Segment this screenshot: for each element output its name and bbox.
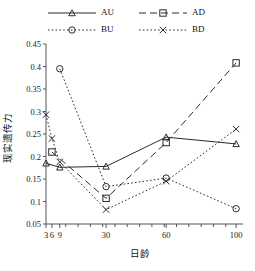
legend-label-ad: AD [192,7,205,17]
y-tick-label: 0.45 [26,39,41,49]
x-tick-label: 6 [50,230,54,240]
chart-series [43,60,240,213]
chart-container: AUADBUBD 0.050.10.150.20.250.30.350.40.4… [0,0,255,271]
x-tick-label: 60 [162,230,171,240]
legend-entry-ad: AD [139,7,205,17]
x-tick-label: 30 [102,230,111,240]
legend-label-au: AU [101,7,114,17]
legend-entry-bd: BD [139,24,205,34]
y-tick-label: 0.1 [30,197,41,207]
y-tick-label: 0.2 [30,152,41,162]
series-line-au [46,137,236,167]
legend-label-bu: BU [101,24,114,34]
legend-label-bd: BD [192,24,205,34]
legend-entry-bu: BU [48,24,114,34]
series-line-bd [46,115,236,210]
legend-entry-au: AU [48,7,114,17]
data-point-bd [49,135,55,141]
axis-lines [46,44,243,224]
y-axis-title: 现实遗传力 [2,113,13,163]
line-chart: AUADBUBD 0.050.10.150.20.250.30.350.40.4… [0,0,255,271]
data-point-bd [163,178,169,184]
data-point-bd [233,126,239,132]
y-tick-label: 0.3 [30,107,41,117]
y-tick-label: 0.25 [26,129,41,139]
series-bd [43,111,240,212]
x-tick-label: 3 [44,230,48,240]
series-ad [49,60,240,202]
marker-cross-strokes [160,27,166,33]
series-au [43,134,240,170]
x-axis-title: 日龄 [130,248,150,259]
legend-marker-bd [160,27,166,33]
chart-axes: 0.050.10.150.20.250.30.350.40.4536930601… [26,39,243,240]
y-tick-label: 0.35 [26,84,41,94]
x-tick-label: 100 [230,230,243,240]
marker-cross-strokes [103,206,109,212]
marker-cross-strokes [49,135,55,141]
marker-cross-strokes [233,126,239,132]
x-tick-label: 9 [58,230,62,240]
y-tick-label: 0.05 [26,219,41,229]
series-bu [57,66,240,212]
marker-cross-strokes [163,178,169,184]
y-tick-label: 0.15 [26,174,41,184]
chart-legend: AUADBUBD [48,7,205,34]
data-point-bd [103,206,109,212]
y-tick-label: 0.4 [30,62,41,72]
series-line-bu [60,69,236,209]
series-line-ad [52,63,236,198]
data-point-bu [233,206,239,212]
